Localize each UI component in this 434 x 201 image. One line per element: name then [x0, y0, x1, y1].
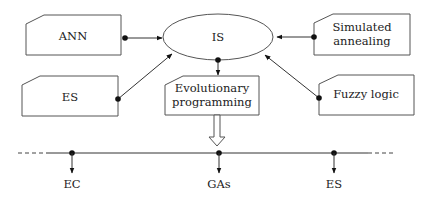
- fuzzy-logic-box: Fuzzy logic: [319, 75, 414, 115]
- diagram-canvas: ANN ES Simulated annealing Fuzzy logic I…: [0, 0, 434, 201]
- es-box: ES: [22, 76, 118, 116]
- is-node: IS: [163, 14, 273, 60]
- evolutionary-programming-label-line2: programming: [172, 95, 252, 109]
- simulated-annealing-label-line1: Simulated: [332, 20, 392, 34]
- ec-label: EC: [63, 177, 80, 191]
- is-label: IS: [212, 30, 225, 44]
- connector-ann-to-is: [122, 35, 162, 41]
- connector-dot: [122, 35, 128, 41]
- gas-label: GAs: [207, 177, 230, 191]
- timeline: EC GAs ES: [18, 150, 396, 191]
- timeline-node-ec: EC: [63, 150, 80, 191]
- ann-label: ANN: [58, 29, 87, 43]
- connector-dot: [316, 95, 322, 101]
- fuzzy-logic-label: Fuzzy logic: [333, 87, 399, 101]
- simulated-annealing-label-line2: annealing: [333, 34, 391, 48]
- evolutionary-programming-label-line1: Evolutionary: [175, 81, 250, 95]
- ann-box: ANN: [26, 15, 121, 55]
- simulated-annealing-box: Simulated annealing: [314, 14, 410, 55]
- timeline-node-es: ES: [326, 150, 342, 191]
- es-timeline-label: ES: [326, 177, 342, 191]
- connector-dot: [215, 57, 221, 63]
- connector-is-to-evolutionary: [215, 57, 221, 75]
- timeline-node-gas: GAs: [207, 150, 230, 191]
- hollow-down-arrow-icon: [209, 115, 225, 146]
- connector-dot: [115, 96, 121, 102]
- es-label: ES: [62, 90, 78, 104]
- connector-sim-to-is: [277, 34, 317, 40]
- connector-fuzzy-to-is: [265, 55, 322, 101]
- connector-dot: [311, 34, 317, 40]
- evolutionary-programming-box: Evolutionary programming: [165, 76, 259, 115]
- connector-es-to-is: [115, 54, 172, 102]
